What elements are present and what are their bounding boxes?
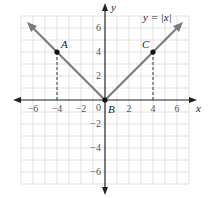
- point-c-label: C: [142, 38, 150, 50]
- absolute-value-graph: A B C 0 y = |x| x y −6 −4 −2 2 4 6 6 4 2…: [0, 0, 210, 198]
- x-tick: −4: [52, 103, 63, 114]
- y-tick: −6: [90, 166, 101, 177]
- y-axis-down-arrow-icon: [102, 187, 108, 195]
- x-tick: 4: [151, 103, 156, 114]
- x-axis-left-arrow-icon: [13, 97, 21, 103]
- origin-label: 0: [96, 102, 101, 113]
- point-b-label: B: [108, 103, 115, 115]
- equation-label: y = |x|: [142, 11, 172, 23]
- x-axis-label: x: [195, 102, 201, 114]
- x-tick: 2: [127, 103, 132, 114]
- point-b: [102, 97, 107, 102]
- point-a-label: A: [60, 38, 68, 50]
- point-c: [150, 49, 155, 54]
- y-tick: 6: [96, 22, 101, 33]
- y-tick: −4: [90, 142, 101, 153]
- y-tick: 2: [96, 70, 101, 81]
- x-tick: −6: [28, 103, 39, 114]
- y-tick: −2: [90, 118, 101, 129]
- x-tick: −2: [76, 103, 87, 114]
- x-tick: 6: [175, 103, 180, 114]
- y-tick: 4: [96, 46, 101, 57]
- y-axis-label: y: [110, 1, 116, 13]
- y-axis-up-arrow-icon: [102, 3, 108, 11]
- point-a: [54, 49, 59, 54]
